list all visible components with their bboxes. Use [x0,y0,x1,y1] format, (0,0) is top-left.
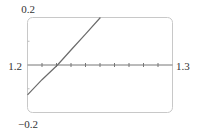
chart: 0.2 −0.2 1.2 1.3 [0,0,197,136]
y-max-label: 0.2 [21,3,35,15]
y-min-label: −0.2 [18,118,38,130]
series-line [28,18,101,95]
x-max-label: 1.3 [176,60,190,72]
x-min-label: 1.2 [8,60,22,72]
